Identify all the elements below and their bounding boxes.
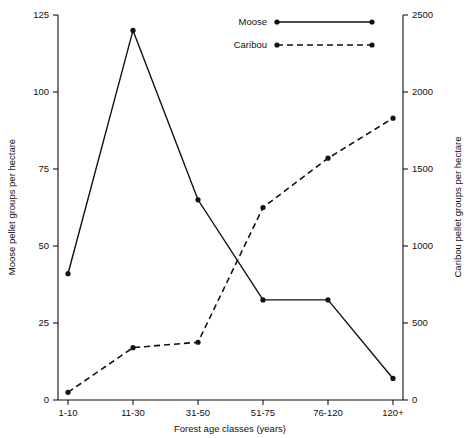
line-chart: 0255075100125 05001000150020002500 1-101… — [0, 0, 471, 438]
y-tick-label-right: 1000 — [412, 240, 433, 251]
legend-marker-moose — [369, 19, 374, 24]
x-axis-title: Forest age classes (years) — [174, 423, 286, 434]
data-point-moose — [130, 28, 135, 33]
y-tick-label-right: 2000 — [412, 86, 433, 97]
legend-marker-moose — [274, 19, 279, 24]
legend-label-moose: Moose — [238, 16, 267, 27]
y-axis-left-title: Moose pellet groups per hectare — [6, 139, 17, 275]
legend-marker-caribou — [274, 42, 279, 47]
y-axis-right-ticks: 05001000150020002500 — [403, 9, 433, 405]
data-point-moose — [260, 297, 265, 302]
y-tick-label-left: 50 — [38, 240, 49, 251]
x-axis-ticks: 1-1011-3031-5051-7576-120120+ — [58, 400, 404, 418]
x-tick-label: 31-50 — [186, 407, 210, 418]
data-point-moose — [390, 376, 395, 381]
y-tick-label-right: 1500 — [412, 163, 433, 174]
y-tick-label-right: 0 — [412, 394, 417, 405]
chart-figure: 0255075100125 05001000150020002500 1-101… — [0, 0, 471, 438]
series-line-moose — [68, 30, 393, 378]
data-point-caribou — [260, 205, 265, 210]
x-tick-label: 1-10 — [58, 407, 77, 418]
x-tick-label: 76-120 — [313, 407, 343, 418]
y-tick-label-left: 125 — [33, 9, 49, 20]
series-line-caribou — [68, 118, 393, 392]
y-tick-label-right: 2500 — [412, 9, 433, 20]
x-tick-label: 11-30 — [121, 407, 145, 418]
y-tick-label-left: 100 — [33, 86, 49, 97]
data-point-caribou — [65, 390, 70, 395]
data-point-caribou — [325, 156, 330, 161]
data-point-moose — [195, 197, 200, 202]
legend-marker-caribou — [369, 42, 374, 47]
y-tick-label-left: 0 — [44, 394, 49, 405]
data-point-moose — [65, 271, 70, 276]
chart-legend: MooseCaribou — [234, 16, 375, 50]
x-tick-label: 120+ — [382, 407, 404, 418]
y-axis-right-title: Caribou pellet groups per hectare — [452, 136, 463, 277]
y-tick-label-left: 25 — [38, 317, 49, 328]
y-axis-left-ticks: 0255075100125 — [33, 9, 58, 405]
series-layer — [65, 28, 395, 395]
data-point-caribou — [195, 340, 200, 345]
legend-label-caribou: Caribou — [234, 39, 267, 50]
data-point-moose — [325, 297, 330, 302]
x-tick-label: 51-75 — [251, 407, 275, 418]
axis-lines — [58, 15, 403, 400]
data-point-caribou — [130, 345, 135, 350]
data-point-caribou — [390, 116, 395, 121]
y-tick-label-left: 75 — [38, 163, 49, 174]
y-tick-label-right: 500 — [412, 317, 428, 328]
